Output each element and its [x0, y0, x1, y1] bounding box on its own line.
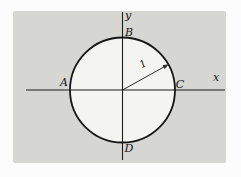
point-label-D: D — [124, 142, 134, 155]
point-label-B: B — [124, 26, 133, 39]
point-label-A: A — [59, 76, 68, 89]
x-axis-label: x — [213, 71, 220, 84]
y-axis-label: y — [124, 9, 132, 22]
figure-stage: 1 y x B A C D — [0, 0, 241, 177]
unit-circle-diagram: 1 y x B A C D — [0, 0, 241, 177]
point-label-C: C — [176, 78, 185, 91]
